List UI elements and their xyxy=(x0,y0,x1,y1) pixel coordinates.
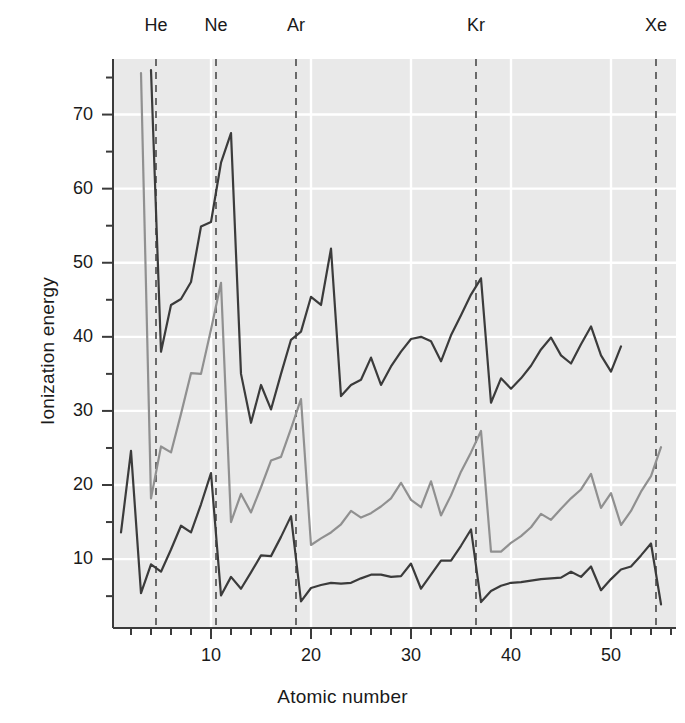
x-tick-label: 40 xyxy=(489,645,533,666)
y-tick-label: 70 xyxy=(49,104,93,125)
y-tick-label: 40 xyxy=(49,326,93,347)
noble-gas-label-ne: Ne xyxy=(194,15,238,36)
noble-gas-label-he: He xyxy=(134,15,178,36)
noble-gas-label-kr: Kr xyxy=(454,15,498,36)
y-tick-label: 10 xyxy=(49,548,93,569)
y-tick-label: 50 xyxy=(49,252,93,273)
x-tick-label: 20 xyxy=(289,645,333,666)
plot-background xyxy=(113,59,676,628)
chart-svg xyxy=(0,0,685,723)
x-tick-label: 50 xyxy=(589,645,633,666)
y-tick-label: 20 xyxy=(49,474,93,495)
x-tick-label: 10 xyxy=(189,645,233,666)
noble-gas-label-ar: Ar xyxy=(274,15,318,36)
ionization-energy-chart: Atomic number Ionization energy HeNeArKr… xyxy=(0,0,685,723)
x-axis-label: Atomic number xyxy=(0,686,685,708)
noble-gas-label-xe: Xe xyxy=(634,15,678,36)
y-tick-label: 60 xyxy=(49,178,93,199)
y-tick-label: 30 xyxy=(49,400,93,421)
x-tick-label: 30 xyxy=(389,645,433,666)
